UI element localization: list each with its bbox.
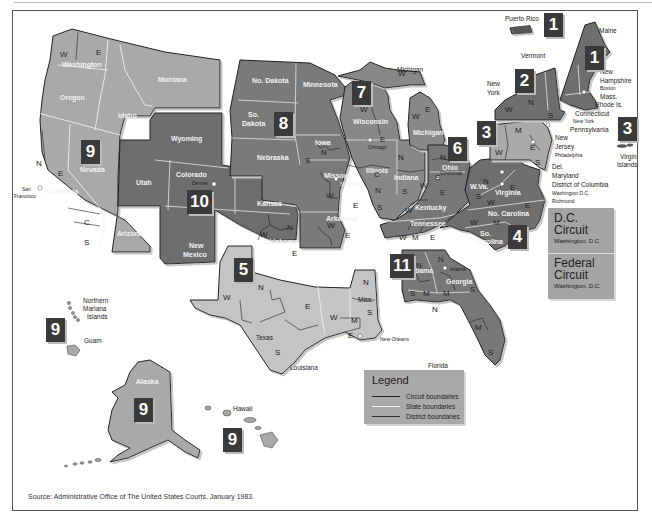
svg-text:Islands: Islands bbox=[87, 313, 108, 320]
legend-label: District boundaries bbox=[406, 413, 460, 420]
svg-text:Georgia: Georgia bbox=[446, 278, 473, 286]
svg-text:W: W bbox=[405, 206, 413, 215]
svg-text:Tennessee: Tennessee bbox=[410, 220, 446, 227]
svg-text:Mexico: Mexico bbox=[183, 251, 207, 258]
svg-text:Francisco: Francisco bbox=[14, 193, 36, 199]
svg-text:Oregon: Oregon bbox=[60, 94, 85, 102]
svg-text:E: E bbox=[510, 183, 515, 192]
svg-text:St. Louis: St. Louis bbox=[340, 181, 360, 187]
svg-text:S: S bbox=[435, 173, 440, 182]
svg-text:N: N bbox=[438, 255, 444, 264]
svg-text:N: N bbox=[36, 159, 42, 168]
circuit-11-badge: 11 bbox=[390, 254, 414, 278]
svg-text:N: N bbox=[440, 153, 446, 162]
svg-text:Hampshire: Hampshire bbox=[600, 77, 632, 85]
svg-text:E: E bbox=[430, 233, 435, 242]
svg-text:M: M bbox=[423, 289, 430, 298]
svg-text:C: C bbox=[84, 218, 90, 227]
svg-text:E: E bbox=[440, 188, 445, 197]
svg-text:S: S bbox=[470, 285, 475, 294]
federal-circuit-location: Washington, D.C. bbox=[548, 283, 614, 289]
svg-text:E: E bbox=[348, 331, 353, 340]
svg-text:Maryland: Maryland bbox=[552, 172, 579, 180]
svg-text:S: S bbox=[377, 203, 382, 212]
svg-text:W: W bbox=[260, 230, 268, 239]
svg-text:M: M bbox=[493, 218, 500, 227]
svg-text:Kentucky: Kentucky bbox=[415, 204, 447, 212]
alaska-shape bbox=[108, 360, 200, 462]
circuit-8-badge: 8 bbox=[274, 112, 293, 136]
svg-text:Cincinnati: Cincinnati bbox=[440, 170, 462, 176]
svg-text:N: N bbox=[398, 153, 404, 162]
circuit-line-swatch bbox=[372, 396, 400, 397]
legend-item-state: State boundaries bbox=[372, 401, 455, 411]
svg-text:Dakota: Dakota bbox=[242, 120, 265, 127]
svg-text:Puerto Rico: Puerto Rico bbox=[505, 15, 539, 22]
svg-text:Jersey: Jersey bbox=[555, 143, 575, 151]
svg-text:Arizona: Arizona bbox=[117, 230, 143, 237]
circuit-3-badge: 3 bbox=[477, 121, 496, 145]
svg-text:W: W bbox=[399, 233, 407, 242]
svg-text:California: California bbox=[46, 188, 78, 195]
svg-text:Nebraska: Nebraska bbox=[257, 154, 289, 161]
svg-text:Denver: Denver bbox=[192, 180, 208, 186]
district-line-swatch bbox=[372, 416, 400, 417]
svg-text:New Orleans: New Orleans bbox=[380, 336, 409, 342]
svg-text:New: New bbox=[555, 134, 568, 141]
circuit-3-virgin-islands-badge: 3 bbox=[618, 117, 637, 141]
svg-text:So.: So. bbox=[480, 230, 491, 237]
svg-text:M: M bbox=[475, 323, 482, 332]
svg-text:Wyoming: Wyoming bbox=[171, 135, 202, 143]
svg-text:Chicago: Chicago bbox=[368, 144, 387, 150]
svg-text:E: E bbox=[525, 201, 530, 210]
svg-text:Mariana: Mariana bbox=[83, 305, 107, 312]
svg-text:E: E bbox=[380, 135, 385, 144]
circuit-2-badge: 2 bbox=[515, 69, 534, 93]
svg-text:Alaska: Alaska bbox=[136, 378, 159, 385]
svg-text:Washington D.C.: Washington D.C. bbox=[552, 190, 590, 196]
svg-text:Mass.: Mass. bbox=[600, 93, 618, 100]
source-note: Source: Administrative Office of The Uni… bbox=[28, 493, 254, 500]
svg-text:E: E bbox=[58, 169, 63, 178]
svg-text:S: S bbox=[488, 348, 493, 357]
svg-text:Boston: Boston bbox=[600, 85, 616, 91]
state-line-swatch bbox=[372, 406, 400, 407]
svg-text:W: W bbox=[327, 221, 335, 230]
svg-text:W: W bbox=[412, 112, 420, 121]
svg-text:Del.: Del. bbox=[552, 163, 564, 170]
svg-text:Islands: Islands bbox=[617, 161, 638, 168]
circuit-6-badge: 6 bbox=[448, 137, 467, 161]
svg-text:San: San bbox=[22, 186, 31, 192]
svg-text:Virgin: Virgin bbox=[620, 153, 637, 161]
svg-text:Guam: Guam bbox=[84, 337, 102, 344]
svg-text:M: M bbox=[515, 126, 522, 135]
svg-text:C: C bbox=[374, 170, 380, 179]
dc-circuit-section: D.C. Circuit Washington, D.C. bbox=[548, 212, 614, 244]
svg-text:S: S bbox=[535, 158, 540, 167]
svg-text:York: York bbox=[487, 89, 501, 96]
svg-text:W: W bbox=[330, 313, 338, 322]
dc-box-divider bbox=[548, 253, 614, 254]
svg-text:E: E bbox=[425, 105, 430, 114]
svg-text:N: N bbox=[375, 186, 381, 195]
circuit-1-puerto-rico-badge: 1 bbox=[544, 13, 563, 37]
svg-text:Oklahoma: Oklahoma bbox=[264, 238, 298, 245]
svg-text:N: N bbox=[416, 261, 422, 270]
svg-text:Indiana: Indiana bbox=[394, 174, 419, 181]
circuit-9-guam-badge: 9 bbox=[46, 318, 65, 342]
svg-text:W: W bbox=[495, 148, 503, 157]
svg-text:Northern: Northern bbox=[83, 297, 109, 304]
svg-text:N: N bbox=[287, 223, 293, 232]
svg-text:E: E bbox=[530, 143, 535, 152]
aleutian-islands bbox=[65, 459, 102, 468]
circuit-1-badge: 1 bbox=[585, 46, 604, 70]
svg-text:W: W bbox=[487, 198, 495, 207]
svg-text:Missouri: Missouri bbox=[324, 172, 353, 179]
svg-text:Carolina: Carolina bbox=[475, 238, 503, 245]
svg-text:Hawaii: Hawaii bbox=[233, 405, 253, 412]
svg-text:Iowa: Iowa bbox=[315, 139, 331, 146]
svg-text:Richmond: Richmond bbox=[552, 198, 575, 204]
fifth-circuit-region bbox=[190, 246, 382, 374]
svg-text:New York: New York bbox=[573, 118, 595, 124]
circuit-4-badge: 4 bbox=[508, 225, 527, 249]
